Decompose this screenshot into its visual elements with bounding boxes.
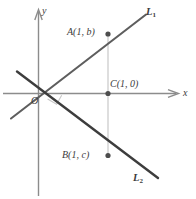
point-A-label: A(1, b) <box>67 27 95 37</box>
origin-label: O <box>31 96 38 106</box>
point-C-label: C(1, 0) <box>110 79 138 89</box>
figure-canvas <box>0 0 196 199</box>
point-B-marker <box>105 153 110 158</box>
x-axis-label: x <box>183 88 187 98</box>
point-C-marker <box>105 91 110 96</box>
geometry-figure: y x O A(1, b) C(1, 0) B(1, c) L1 L2 <box>0 0 196 199</box>
point-A-marker <box>105 31 110 36</box>
line-L1-label-subscript: 1 <box>152 11 156 19</box>
line-L2-label-subscript: 2 <box>139 177 143 185</box>
y-axis-label: y <box>42 6 46 16</box>
line-L1-label: L1 <box>146 7 156 19</box>
x-axis <box>3 90 179 98</box>
line-L2-label: L2 <box>133 173 143 185</box>
point-B-label: B(1, c) <box>62 150 89 160</box>
